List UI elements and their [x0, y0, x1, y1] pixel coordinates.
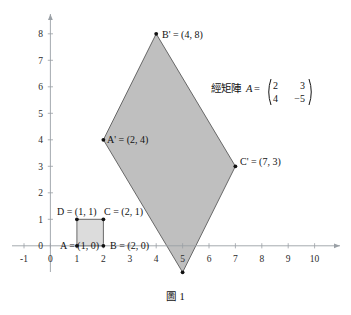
- point-label-c: C = (2, 1): [104, 206, 143, 218]
- matrix-annotation-name: A: [245, 83, 253, 94]
- point-marker-c-prime: [234, 164, 238, 168]
- figure-container: -1 0 1 2 3 4 5 6 7 8 9 10 0 1 2 3 4 5 6 …: [0, 0, 351, 315]
- matrix-entry-r1c0: 4: [273, 93, 278, 104]
- point-marker-a-prime: [102, 138, 106, 142]
- x-tick-label: 10: [310, 254, 320, 264]
- x-tick-label: 7: [233, 254, 238, 264]
- matrix-right-bracket-icon: [309, 79, 311, 105]
- y-tick-label: 5: [38, 109, 43, 119]
- matrix-entry-r0c0: 2: [273, 80, 278, 91]
- matrix-entry-r1c1: −5: [294, 93, 305, 104]
- point-label-c-prime: C' = (7, 3): [240, 156, 281, 168]
- point-label-b-prime: B' = (4, 8): [162, 29, 203, 41]
- x-tick-label: 1: [75, 254, 80, 264]
- figure-caption: 圖 1: [0, 288, 351, 303]
- x-tick-label: 2: [101, 254, 106, 264]
- coordinate-plot: -1 0 1 2 3 4 5 6 7 8 9 10 0 1 2 3 4 5 6 …: [0, 0, 351, 286]
- x-tick-label: -1: [20, 254, 28, 264]
- x-tick-label: 3: [127, 254, 132, 264]
- y-tick-label: 8: [38, 29, 43, 39]
- y-tick-label: 4: [38, 135, 43, 145]
- point-marker-b: [102, 244, 106, 248]
- point-label-b: B = (2, 0): [110, 240, 149, 252]
- y-axis-arrow-icon: [48, 14, 53, 20]
- point-marker-d: [75, 217, 79, 221]
- point-label-a-prime: A' = (2, 4): [107, 134, 148, 146]
- point-marker-b-prime: [154, 32, 158, 36]
- x-tick-label: 5: [180, 254, 185, 264]
- y-tick-label: 3: [38, 162, 43, 172]
- y-tick-label: 1: [38, 215, 43, 225]
- x-tick-label: 0: [48, 254, 53, 264]
- matrix-annotation-prefix: 經矩陣: [211, 82, 242, 94]
- point-marker-d-prime: [181, 270, 185, 274]
- matrix-annotation-equals: =: [254, 83, 260, 94]
- x-tick-label: 4: [154, 254, 159, 264]
- matrix-annotation: 經矩陣 A = 2 3 4 −5: [211, 79, 311, 105]
- y-tick-label: 6: [38, 82, 43, 92]
- y-tick-label: 7: [38, 56, 43, 66]
- x-tick-label: 6: [207, 254, 212, 264]
- point-label-d: D = (1, 1): [57, 206, 97, 218]
- matrix-left-bracket-icon: [269, 79, 271, 105]
- y-tick-label: 2: [38, 188, 43, 198]
- matrix-entry-r0c1: 3: [300, 80, 305, 91]
- point-label-a: A = (1, 0): [60, 240, 99, 252]
- x-tick-label: 8: [259, 254, 264, 264]
- transformed-quadrilateral-shape: [103, 34, 235, 272]
- x-axis-arrow-icon: [334, 243, 340, 248]
- point-marker-c: [102, 217, 106, 221]
- y-tick-label: 0: [38, 241, 43, 251]
- x-tick-label: 9: [286, 254, 291, 264]
